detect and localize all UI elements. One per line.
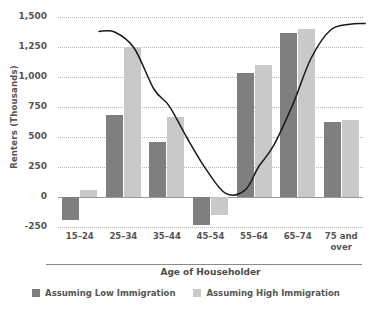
x-axis-tick-label: 25–34 [102,231,146,242]
renters-by-age-bar-chart: Renters (Thousands) 1,5001,2501,00075050… [0,0,372,316]
x-axis-tick-label: 15–24 [58,231,102,242]
x-axis-tick-label: 75 and over [319,231,363,253]
trend-line [58,17,363,227]
y-axis-tick-label: 1,000 [0,71,47,81]
legend-item[interactable]: Assuming High Immigration [193,288,339,298]
legend-label: Assuming High Immigration [206,288,339,298]
y-axis-tick-label: 0 [0,191,47,201]
x-axis-tick-label: 55–64 [232,231,276,242]
legend-swatch [193,289,201,297]
y-axis-tick-label: 500 [0,131,47,141]
legend-swatch [32,289,40,297]
gridline [58,227,363,228]
x-axis-rule [46,264,362,265]
y-axis-tick-label: 1,250 [0,41,47,51]
x-axis-title: Age of Householder [58,267,363,277]
x-axis-tick-labels: 15–2425–3435–4445–5455–6465–7475 and ove… [58,231,363,263]
y-axis-tick-label: 250 [0,161,47,171]
legend-item[interactable]: Assuming Low Immigration [32,288,175,298]
y-axis-tick-label: -250 [0,221,47,231]
plot-area: 1,5001,2501,0007505002500-250 [58,17,363,227]
x-axis-tick-label: 35–44 [145,231,189,242]
y-axis-tick-label: 1,500 [0,11,47,21]
y-axis-tick-label: 750 [0,101,47,111]
x-axis-tick-label: 65–74 [276,231,320,242]
chart-legend: Assuming Low ImmigrationAssuming High Im… [0,288,372,298]
trend-line-path [99,24,365,195]
legend-label: Assuming Low Immigration [45,288,175,298]
x-axis-tick-label: 45–54 [189,231,233,242]
